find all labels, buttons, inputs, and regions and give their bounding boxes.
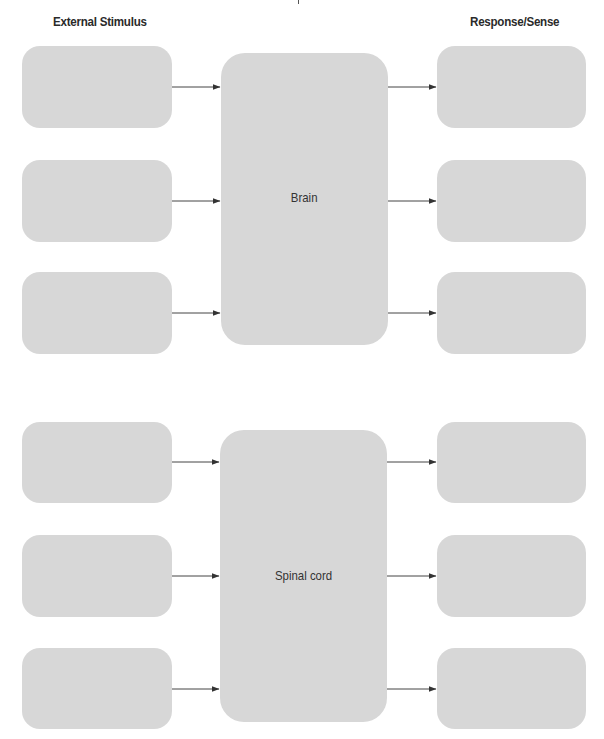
arrows-layer xyxy=(0,0,604,739)
arrow-icon xyxy=(172,87,436,689)
